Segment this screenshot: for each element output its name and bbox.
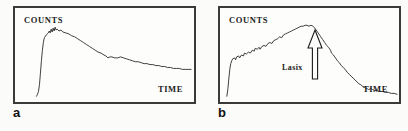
lasix-arrow-marker: [305, 28, 325, 81]
panel-a-counts-label: COUNTS: [24, 16, 63, 25]
panel-a-time-label: TIME: [158, 85, 183, 94]
lasix-annotation-label: Lasix: [282, 64, 303, 72]
panel-b-counts-label: COUNTS: [229, 16, 268, 25]
panel-a-letter: a: [13, 106, 20, 119]
panel-b-letter: b: [218, 106, 226, 119]
panel-b: Lasix COUNTS TIME: [218, 6, 401, 104]
up-arrow-icon: [305, 28, 325, 81]
panel-b-time-label: TIME: [363, 85, 388, 94]
panel-a: COUNTS TIME: [13, 6, 196, 104]
figure-renogram-curves: COUNTS TIME a Lasix COUNTS TIME b: [0, 0, 408, 131]
